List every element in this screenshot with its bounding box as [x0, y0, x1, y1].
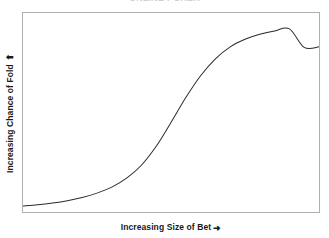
yaxis-label-container: Increasing Chance of Fold⬆ — [0, 12, 20, 213]
yaxis-label-text: Increasing Chance of Fold — [5, 64, 15, 173]
yaxis-label: Increasing Chance of Fold⬆ — [5, 53, 15, 173]
chart-title-clipped: ONLINE POKER — [0, 0, 329, 4]
plot-area — [22, 12, 320, 213]
right-arrow-icon: ➜ — [213, 224, 221, 233]
curve-path — [23, 28, 319, 206]
chart-figure: ONLINE POKER Increasing Chance of Fold⬆ … — [0, 0, 329, 238]
xaxis-label: Increasing Size of Bet➜ — [22, 222, 320, 232]
sigmoid-curve — [23, 13, 319, 212]
xaxis-label-text: Increasing Size of Bet — [121, 222, 212, 232]
chart-title-text: ONLINE POKER — [0, 0, 329, 3]
up-arrow-icon: ⬆ — [6, 53, 15, 61]
